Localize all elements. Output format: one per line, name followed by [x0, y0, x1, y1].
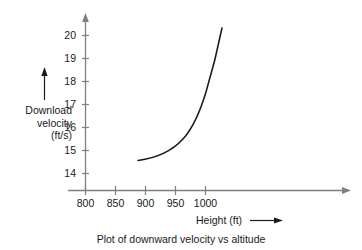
x-tick-label: 1000 — [189, 198, 223, 209]
x-tick-label: 950 — [159, 198, 193, 209]
y-tick-label: 18 — [54, 76, 76, 87]
ylabel-arrow-icon — [41, 67, 47, 100]
velocity-curve — [138, 28, 222, 161]
y-tick-label: 20 — [54, 30, 76, 41]
x-axis-title: Height (ft) — [196, 214, 242, 227]
x-axis-arrowhead — [342, 187, 351, 194]
x-tick-label: 850 — [99, 198, 133, 209]
y-axis-title-line: (ft/s) — [6, 129, 72, 142]
chart-caption: Plot of downward velocity vs altitude — [0, 233, 362, 245]
x-tick-label: 800 — [69, 198, 103, 209]
xlabel-arrow-icon — [250, 217, 283, 223]
y-axis-title-line: Download — [6, 104, 72, 117]
y-tick-label: 14 — [54, 168, 76, 179]
y-axis-title-line: velocity — [6, 117, 72, 130]
y-axis-arrowhead — [82, 13, 89, 22]
y-axis-title: Download velocity (ft/s) — [6, 104, 72, 142]
y-tick-label: 15 — [54, 145, 76, 156]
x-tick-label: 900 — [129, 198, 163, 209]
chart-figure: 20 19 18 17 16 15 14 800 850 900 950 100… — [0, 0, 362, 250]
y-tick-label: 19 — [54, 53, 76, 64]
